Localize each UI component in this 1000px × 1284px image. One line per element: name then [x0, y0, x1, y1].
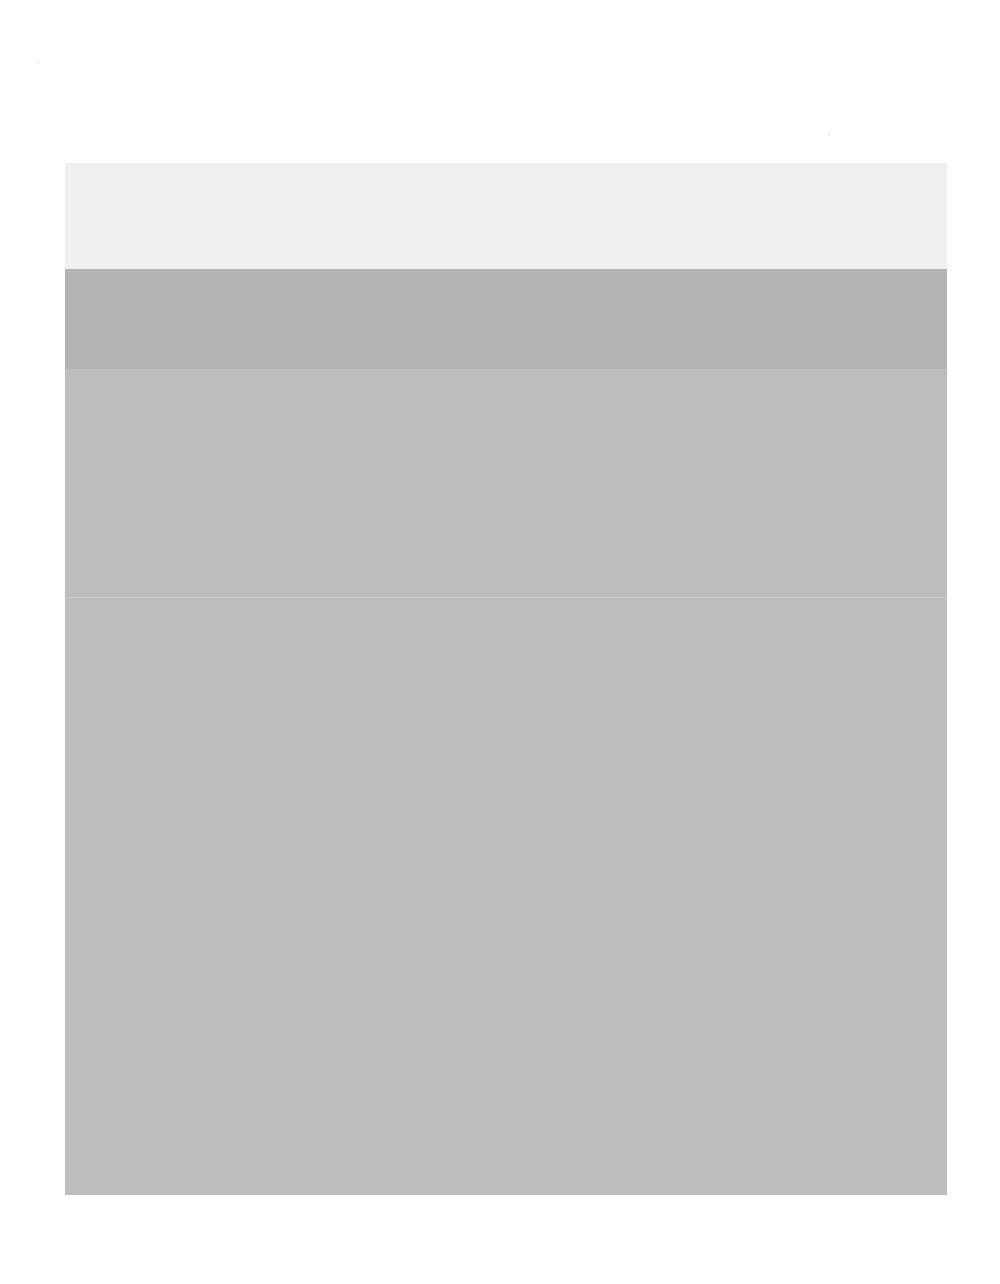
close-button[interactable]: [920, 203, 933, 216]
maximize-button[interactable]: [895, 203, 908, 216]
window-toolbar[interactable]: [65, 269, 947, 369]
scan-speck-artifact: [37, 60, 39, 64]
scan-speck-artifact-right: [828, 131, 830, 136]
window-titlebar[interactable]: [65, 163, 947, 269]
window-content-area[interactable]: [65, 369, 947, 1195]
content-divider: [65, 597, 947, 598]
application-window[interactable]: [65, 163, 947, 1195]
window-controls[interactable]: [870, 203, 933, 216]
page-canvas: [0, 0, 1000, 1284]
minimize-button[interactable]: [870, 203, 883, 216]
